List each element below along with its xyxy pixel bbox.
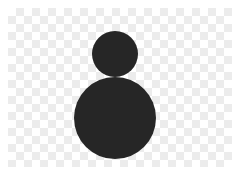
- person-silhouette-icon: [0, 0, 242, 179]
- head-circle: [92, 31, 138, 77]
- body-circle: [74, 77, 156, 159]
